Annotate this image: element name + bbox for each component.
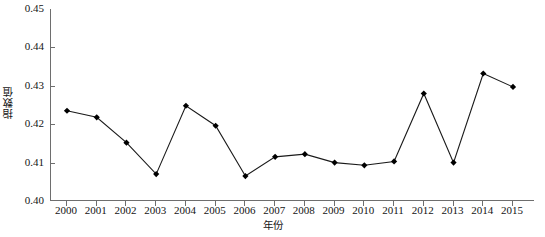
y-tick-mark (50, 86, 55, 87)
data-point-marker (242, 173, 248, 179)
x-tick-mark (185, 201, 186, 206)
data-point-marker (302, 151, 308, 157)
x-tick-mark (482, 201, 483, 206)
x-tick-mark (363, 201, 364, 206)
y-tick-mark (50, 124, 55, 125)
x-tick-mark (244, 201, 245, 206)
data-point-marker (332, 160, 338, 166)
x-tick-mark (423, 201, 424, 206)
data-point-marker (64, 108, 70, 114)
y-tick-label: 0.44 (12, 41, 44, 52)
x-tick-mark (274, 201, 275, 206)
data-point-marker (450, 160, 456, 166)
data-point-marker (421, 90, 427, 96)
x-tick-mark (215, 201, 216, 206)
data-point-marker (361, 162, 367, 168)
y-tick-label: 0.42 (12, 118, 44, 129)
x-tick-mark (334, 201, 335, 206)
x-axis-title: 年份 (0, 219, 545, 232)
data-point-marker (391, 158, 397, 164)
line-chart: 指数值 0.450.440.430.420.410.40 20002001200… (0, 0, 545, 237)
series-markers (64, 70, 516, 179)
data-point-marker (272, 154, 278, 160)
x-tick-mark (96, 201, 97, 206)
data-point-marker (480, 70, 486, 76)
plot-area (50, 9, 534, 201)
data-point-marker (183, 103, 189, 109)
x-tick-mark (453, 201, 454, 206)
y-tick-label: 0.41 (12, 157, 44, 168)
x-tick-mark (125, 201, 126, 206)
y-tick-mark (50, 47, 55, 48)
y-tick-label: 0.45 (12, 3, 44, 14)
data-point-marker (213, 123, 219, 129)
x-tick-mark (512, 201, 513, 206)
x-axis-title-label: 年份 (263, 220, 283, 231)
x-tick-mark (304, 201, 305, 206)
series-line (67, 74, 513, 177)
x-tick-mark (155, 201, 156, 206)
y-tick-label: 0.43 (12, 80, 44, 91)
x-tick-mark (393, 201, 394, 206)
series-svg (51, 9, 535, 201)
x-axis-tick-labels: 2000200120022003200420052006200720082009… (0, 204, 545, 220)
y-tick-mark (50, 163, 55, 164)
x-tick-mark (66, 201, 67, 206)
data-point-marker (510, 84, 516, 90)
y-axis-tick-labels: 0.450.440.430.420.410.40 (8, 0, 44, 237)
